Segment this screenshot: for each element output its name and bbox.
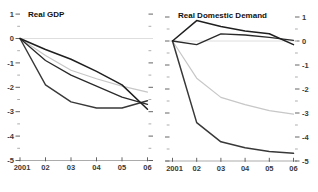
x-axis-tick-label: 05 — [118, 163, 126, 172]
y-axis-tick-label: -3 — [302, 109, 309, 118]
gdp-dark-line-steep-early — [20, 39, 148, 109]
x-axis-tick-label: 06 — [143, 163, 151, 172]
rdd-dark-line-dip-then-rise — [173, 34, 294, 45]
y-axis-tick-label: 0 — [10, 34, 14, 43]
x-axis-tick-label: 04 — [92, 163, 101, 172]
x-axis-tick-label: 2001 — [166, 164, 183, 173]
x-axis-tick-label: 03 — [217, 164, 225, 173]
x-axis-tick-label: 03 — [67, 163, 75, 172]
gdp-dark-line-middle — [20, 39, 148, 105]
x-axis-tick-label: 05 — [265, 164, 273, 173]
y-axis-tick-label: -4 — [302, 133, 309, 142]
x-axis-tick-label: 06 — [289, 164, 297, 173]
y-axis-tick-label: 0 — [302, 37, 306, 46]
charts-canvas: 10-1-2-3-4-52001020304050610-1-2-3-4-520… — [0, 0, 318, 192]
rdd-dark-line-plunge — [173, 41, 294, 153]
x-axis-tick-label: 02 — [41, 163, 49, 172]
y-axis-tick-label: 1 — [10, 10, 14, 19]
x-axis-tick-label: 04 — [241, 164, 250, 173]
y-axis-tick-label: -1 — [302, 61, 309, 70]
right-chart-title: Real Domestic Demand — [178, 11, 267, 20]
y-axis-tick-label: -2 — [302, 85, 309, 94]
two-panel-line-chart-figure: 10-1-2-3-4-52001020304050610-1-2-3-4-520… — [0, 0, 318, 192]
y-axis-tick-label: -1 — [7, 59, 14, 68]
y-axis-tick-label: -3 — [7, 107, 14, 116]
y-axis-tick-label: -2 — [7, 83, 14, 92]
y-axis-tick-label: -4 — [7, 132, 14, 141]
left-chart-title: Real GDP — [28, 10, 64, 19]
x-axis-tick-label: 02 — [193, 164, 201, 173]
x-axis-tick-label: 2001 — [14, 163, 31, 172]
y-axis-tick-label: 1 — [302, 13, 306, 22]
y-axis-tick-label: -5 — [302, 157, 309, 166]
